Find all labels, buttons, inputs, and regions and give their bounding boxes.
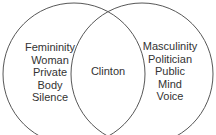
left-item: Body — [18, 79, 82, 92]
right-item: Voice — [137, 90, 203, 103]
right-set-labels: Masculinity Politician Public Mind Voice — [137, 40, 203, 103]
left-item: Woman — [18, 54, 82, 67]
intersection-labels: Clinton — [84, 65, 132, 78]
left-item: Silence — [18, 91, 82, 104]
right-item: Masculinity — [137, 40, 203, 53]
left-item: Femininity — [18, 41, 82, 54]
left-set-labels: Femininity Woman Private Body Silence — [18, 41, 82, 104]
right-item: Mind — [137, 78, 203, 91]
intersection-item: Clinton — [84, 65, 132, 78]
left-item: Private — [18, 66, 82, 79]
right-item: Public — [137, 65, 203, 78]
right-item: Politician — [137, 53, 203, 66]
